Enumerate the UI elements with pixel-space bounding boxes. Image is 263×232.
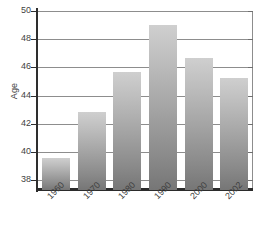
y-axis-tick-right (248, 11, 253, 12)
bar-chart: Age 38404244464850 196019701980199020002… (0, 0, 263, 232)
y-axis-tick-label: 46 (1, 61, 31, 71)
y-axis-tick (31, 39, 38, 40)
y-axis-tick-label: 44 (1, 90, 31, 100)
y-axis-tick-right (248, 39, 253, 40)
y-axis-tick-label: 38 (1, 174, 31, 184)
y-axis-tick (31, 152, 38, 153)
y-axis-tick (31, 67, 38, 68)
y-axis-tick-label: 40 (1, 146, 31, 156)
y-axis-tick (31, 180, 38, 181)
y-axis-tick (31, 11, 38, 12)
y-axis-tick-label: 42 (1, 118, 31, 128)
plot-right-border (252, 11, 253, 190)
y-axis-tick (31, 96, 38, 97)
y-axis-tick-right (248, 124, 253, 125)
bar (149, 25, 177, 190)
bar-series (38, 11, 252, 190)
bar (220, 78, 248, 190)
y-axis-tick-label: 48 (1, 33, 31, 43)
bar (78, 112, 106, 190)
y-axis-tick-right (248, 180, 253, 181)
bar (185, 58, 213, 190)
x-axis-tick-labels: 196019701980199020002002 (0, 190, 263, 232)
y-axis-tick-right (248, 96, 253, 97)
y-axis-tick-label: 50 (1, 5, 31, 15)
y-axis-tick-right (248, 67, 253, 68)
y-axis-tick (31, 124, 38, 125)
bar (113, 72, 141, 190)
y-axis-tick-right (248, 152, 253, 153)
